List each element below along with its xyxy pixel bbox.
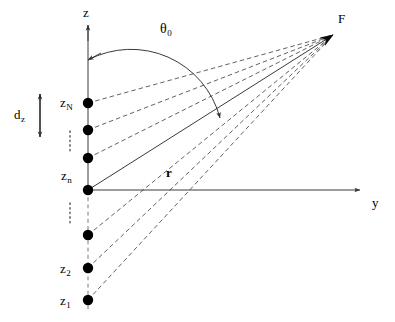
theta-arc-start-arrowhead [88,53,101,60]
ray-to-focus [88,35,333,300]
element-label-symbol: z [61,168,67,183]
range-vector-label: r [166,166,172,179]
element-label-subscript: 2 [66,268,71,278]
range-vector-arrow [88,35,333,190]
z-axis-label: z [83,6,89,19]
focusing-rays [88,35,333,300]
element-label-symbol: z [60,95,66,110]
element-spacing-label: dz [14,108,25,121]
theta-angle-label: θ0 [160,22,171,36]
array-element-dot [83,295,93,305]
array-element-dot [83,185,93,195]
element-label-zn: zn [61,169,71,182]
ray-to-focus [88,35,333,103]
array-element-dots [83,98,93,305]
array-element-dot [83,153,93,163]
array-element-dot [83,125,93,135]
axes [88,25,360,312]
ray-to-focus [88,35,333,268]
spacing-symbol: d [14,107,21,122]
theta-symbol: θ [160,21,167,36]
range-vector-line [88,35,333,190]
theta-arc-path [88,49,220,118]
focus-point-label: F [338,12,345,25]
array-element-dot [83,230,93,240]
element-label-subscript: N [66,102,73,112]
element-label-subscript: 1 [66,300,71,310]
spacing-subscript: z [21,114,25,124]
element-label-z1: z1 [60,294,70,307]
element-label-z2: z2 [60,262,70,275]
element-label-symbol: z [60,261,66,276]
element-label-symbol: z [60,293,66,308]
ray-to-focus [88,35,333,235]
ray-to-focus [88,35,333,158]
theta-arc [88,49,220,118]
y-axis-label: y [372,196,379,209]
theta-subscript: 0 [167,28,172,38]
element-label-zN: zN [60,96,72,109]
array-focusing-diagram: z y F θ0 r dz zNznz2z1 [0,0,395,322]
array-element-dot [83,263,93,273]
array-element-dot [83,98,93,108]
element-label-subscript: n [67,175,72,185]
